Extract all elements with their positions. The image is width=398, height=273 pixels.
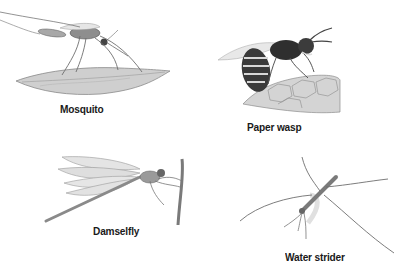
damselfly-illustration xyxy=(0,135,200,273)
paper-wasp-illustration xyxy=(198,0,398,140)
water-strider-panel: Water strider xyxy=(198,135,398,273)
mosquito-label: Mosquito xyxy=(60,103,104,115)
mosquito-panel: Mosquito xyxy=(0,0,200,120)
mosquito-illustration xyxy=(0,0,200,120)
paper-wasp-panel: Paper wasp xyxy=(198,0,398,140)
damselfly-panel: Damselfly xyxy=(0,135,200,273)
insect-illustration-figure: Mosquito Paper wasp xyxy=(0,0,398,273)
paper-wasp-label: Paper wasp xyxy=(247,121,301,133)
water-strider-label: Water strider xyxy=(285,251,345,263)
damselfly-label: Damselfly xyxy=(93,225,139,237)
